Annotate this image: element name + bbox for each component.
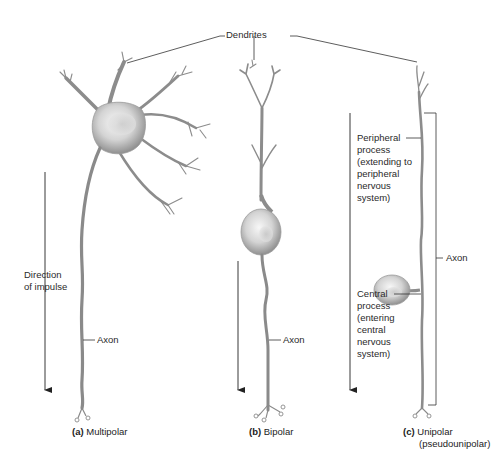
- neuron-diagram: [0, 0, 503, 465]
- axon-label-a: Axon: [97, 334, 119, 346]
- caption-name-c: Unipolar: [417, 426, 452, 437]
- axon-label-b: Axon: [283, 334, 305, 346]
- multipolar-neuron: [60, 52, 210, 422]
- dendrites-label: Dendrites: [226, 29, 267, 41]
- caption-subname-c: (pseudounipolar): [419, 438, 490, 450]
- caption-name-b: Bipolar: [264, 426, 294, 437]
- caption-letter-c: (c): [403, 426, 415, 437]
- caption-letter-a: (a): [72, 426, 84, 437]
- dendrites-leader-lines: [127, 36, 417, 63]
- bipolar-neuron: [240, 60, 285, 422]
- caption-unipolar: (c) Unipolar: [403, 426, 453, 438]
- central-process-label: Central process (entering central nervou…: [357, 288, 395, 360]
- unipolar-neuron: [374, 66, 431, 418]
- peripheral-process-label: Peripheral process (extending to periphe…: [357, 132, 412, 204]
- axon-bracket-c: [424, 113, 436, 405]
- caption-bipolar: (b) Bipolar: [249, 426, 293, 438]
- caption-letter-b: (b): [249, 426, 261, 437]
- caption-name-a: Multipolar: [86, 426, 127, 437]
- direction-of-impulse-label: Direction of impulse: [24, 269, 67, 293]
- axon-label-c: Axon: [446, 252, 468, 264]
- caption-multipolar: (a) Multipolar: [72, 426, 127, 438]
